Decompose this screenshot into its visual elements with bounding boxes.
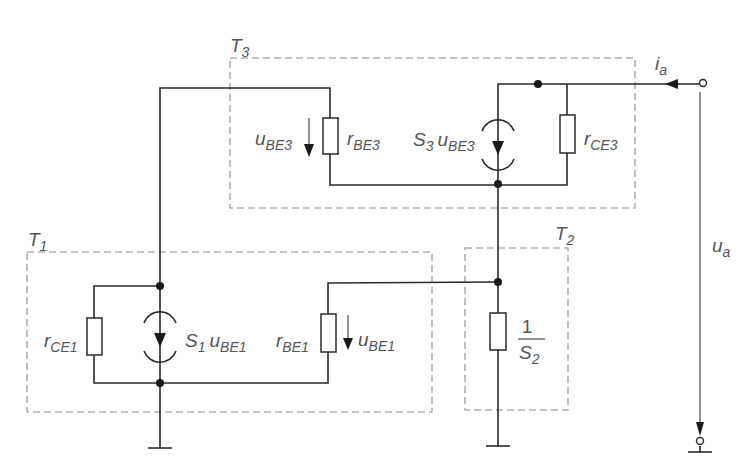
u-be3-label: uBE3 (255, 128, 292, 153)
wire-base3-to-collector1 (160, 88, 330, 448)
s3-source-label: S3uBE3 (413, 129, 475, 154)
wire-collector3-output (498, 84, 700, 125)
r-be1-label: rBE1 (276, 330, 309, 355)
circuit-diagram: T3 T1 T2 uBE3 rBE3 S3uBE3 rCE3 rCE1 S1uB… (0, 0, 754, 468)
s3-current-source (482, 120, 514, 184)
t3-label: T3 (230, 35, 250, 60)
output-terminal-bottom[interactable] (697, 438, 704, 445)
i-a-label: ia (655, 53, 667, 78)
wire-base1-to-t2 (328, 282, 498, 314)
u-be1-label: uBE1 (358, 329, 395, 354)
s2-denominator: S2 (519, 342, 540, 367)
s1-source-label: S1uBE1 (185, 330, 247, 355)
r-be3-label: rBE3 (347, 128, 380, 153)
wire-emitter1-bus (94, 352, 328, 383)
node-emitter2 (494, 278, 502, 286)
s2-resistor (490, 313, 506, 350)
r-ce1-resistor (87, 318, 102, 355)
r-be3-resistor (323, 118, 338, 154)
t2-label: T2 (555, 223, 575, 248)
output-terminal-top[interactable] (700, 80, 707, 87)
r-ce1-label: rCE1 (44, 330, 78, 355)
i-a-arrowhead (665, 79, 678, 89)
u-be1-arrowhead (343, 338, 353, 350)
r-ce3-label: rCE3 (584, 128, 618, 153)
node-emitter1 (156, 379, 164, 387)
t1-label: T1 (28, 229, 47, 254)
t2-block-boundary (465, 248, 568, 410)
wire-rce1-top (94, 286, 160, 318)
s2-numerator: 1 (522, 316, 533, 337)
s3-arrow-icon (492, 141, 504, 155)
node-collector3 (534, 80, 542, 88)
s1-arrow-icon (154, 333, 166, 347)
r-be1-resistor (321, 314, 336, 352)
u-be3-arrowhead (304, 144, 314, 157)
r-ce3-resistor (560, 115, 575, 153)
u-a-arrowhead (696, 422, 704, 436)
wire-emitter3-bus (330, 153, 567, 185)
u-a-label: ua (712, 235, 731, 260)
node-collector1 (156, 282, 164, 290)
